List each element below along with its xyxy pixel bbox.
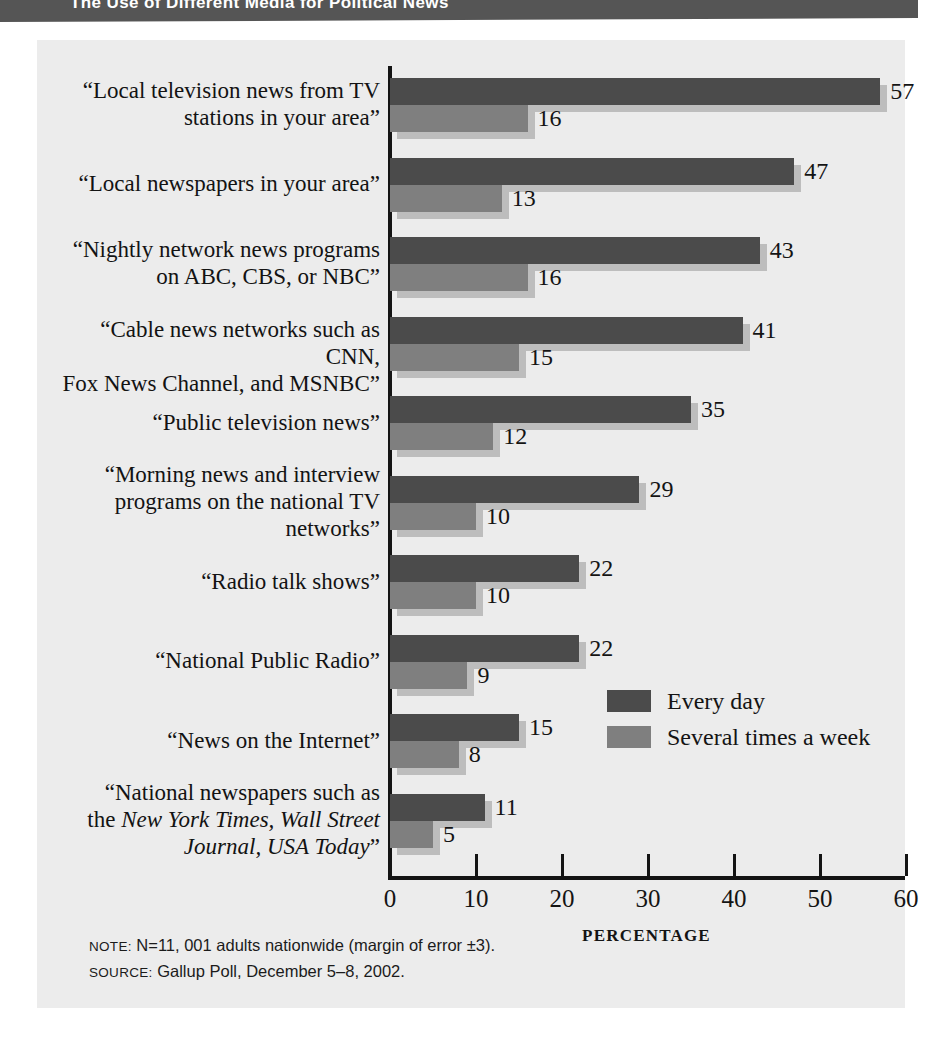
category-label: “Radio talk shows”	[50, 568, 380, 595]
bar-several-times-a-week[interactable]	[390, 821, 433, 848]
x-axis-tick-label: 50	[790, 885, 850, 913]
category-label: “News on the Internet”	[50, 727, 380, 754]
chart-legend: Every day Several times a week	[607, 685, 870, 757]
category-label: “Morning news and interviewprograms on t…	[50, 461, 380, 542]
bar-several-times-a-week[interactable]	[390, 741, 459, 768]
bar-value-label: 13	[512, 185, 536, 212]
bar-several-times-a-week[interactable]	[390, 185, 502, 212]
bar-value-label: 12	[503, 423, 527, 450]
bar-value-label: 43	[770, 237, 794, 264]
bar-every-day[interactable]	[390, 78, 880, 105]
legend-entry: Every day	[607, 685, 870, 717]
note-text: N=11, 001 adults nationwide (margin of e…	[132, 936, 495, 954]
source-text: Gallup Poll, December 5–8, 2002.	[153, 962, 405, 980]
bar-value-label: 16	[538, 105, 562, 132]
bar-several-times-a-week[interactable]	[390, 423, 493, 450]
bar-every-day[interactable]	[390, 714, 519, 741]
bar-every-day[interactable]	[390, 158, 794, 185]
figure-panel: PERCENTAGE Every day Several times a wee…	[37, 40, 905, 1008]
legend-entry: Several times a week	[607, 721, 870, 753]
bar-value-label: 22	[589, 635, 613, 662]
chart-title: The Use of Different Media for Political…	[70, 0, 449, 13]
x-axis-tick	[733, 854, 736, 876]
bar-every-day[interactable]	[390, 555, 579, 582]
bar-several-times-a-week[interactable]	[390, 344, 519, 371]
bar-several-times-a-week[interactable]	[390, 582, 476, 609]
bar-several-times-a-week[interactable]	[390, 662, 467, 689]
x-axis-line	[388, 876, 905, 880]
bar-value-label: 16	[538, 264, 562, 291]
x-axis-tick	[561, 854, 564, 876]
bar-every-day[interactable]	[390, 794, 485, 821]
bar-every-day[interactable]	[390, 317, 743, 344]
bar-value-label: 22	[589, 555, 613, 582]
chart-title-bar: The Use of Different Media for Political…	[0, 0, 918, 22]
bar-value-label: 10	[486, 582, 510, 609]
bar-several-times-a-week[interactable]	[390, 264, 528, 291]
x-axis-tick-label: 10	[446, 885, 506, 913]
category-label: “Local television news from TVstations i…	[50, 77, 380, 131]
category-label: “National newspapers such asthe New York…	[50, 779, 380, 860]
plot-area: PERCENTAGE Every day Several times a wee…	[37, 40, 905, 1008]
bar-value-label: 11	[495, 794, 518, 821]
source-key: SOURCE:	[89, 965, 153, 980]
x-axis-tick	[905, 854, 908, 876]
x-axis-tick-label: 0	[360, 885, 420, 913]
bar-value-label: 10	[486, 503, 510, 530]
bar-value-label: 57	[890, 78, 914, 105]
category-label: “National Public Radio”	[50, 647, 380, 674]
note-line: NOTE: N=11, 001 adults nationwide (margi…	[89, 933, 495, 959]
bar-value-label: 29	[649, 476, 673, 503]
category-label: “Public television news”	[50, 409, 380, 436]
bar-value-label: 47	[804, 158, 828, 185]
x-axis-tick	[389, 854, 392, 876]
x-axis-tick-label: 40	[704, 885, 764, 913]
legend-swatch-several-times	[607, 726, 651, 748]
bar-every-day[interactable]	[390, 396, 691, 423]
figure-footnotes: NOTE: N=11, 001 adults nationwide (margi…	[89, 933, 495, 985]
x-axis-tick	[647, 854, 650, 876]
bar-value-label: 41	[753, 317, 777, 344]
x-axis-tick-label: 20	[532, 885, 592, 913]
note-key: NOTE:	[89, 939, 132, 954]
bar-several-times-a-week[interactable]	[390, 105, 528, 132]
bar-value-label: 15	[529, 714, 553, 741]
x-axis-tick-label: 60	[876, 885, 936, 913]
bar-several-times-a-week[interactable]	[390, 503, 476, 530]
x-axis-tick	[475, 854, 478, 876]
bar-value-label: 8	[469, 741, 481, 768]
category-label: “Local newspapers in your area”	[50, 170, 380, 197]
bar-every-day[interactable]	[390, 635, 579, 662]
x-axis-tick	[819, 854, 822, 876]
bar-value-label: 5	[443, 821, 455, 848]
source-line: SOURCE: Gallup Poll, December 5–8, 2002.	[89, 959, 495, 985]
bar-value-label: 35	[701, 396, 725, 423]
bar-value-label: 15	[529, 344, 553, 371]
legend-swatch-every-day	[607, 690, 651, 712]
category-label: “Cable news networks such as CNN,Fox New…	[50, 316, 380, 397]
bar-value-label: 9	[477, 662, 489, 689]
legend-label-every-day: Every day	[667, 688, 765, 715]
category-label: “Nightly network news programson ABC, CB…	[50, 236, 380, 290]
bar-every-day[interactable]	[390, 476, 639, 503]
legend-label-several-times: Several times a week	[667, 724, 870, 751]
x-axis-tick-label: 30	[618, 885, 678, 913]
bar-every-day[interactable]	[390, 237, 760, 264]
